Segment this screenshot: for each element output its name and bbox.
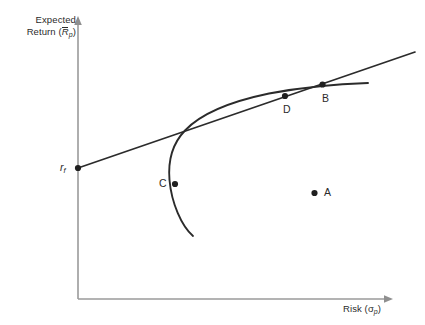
x-axis-title-suffix: ) <box>378 303 381 314</box>
x-axis-title-prefix: Risk ( <box>343 303 368 314</box>
efficient-frontier-curve <box>169 83 368 236</box>
y-axis-title: Expected Return (Rp) <box>14 14 76 41</box>
point-label-c: C <box>159 177 167 189</box>
x-axis-title: Risk (σp) <box>343 303 381 318</box>
point-marker-a <box>311 190 317 196</box>
point-marker-b <box>319 81 325 87</box>
y-axis-title-symbol: R <box>62 26 69 38</box>
point-label-b: B <box>322 92 329 104</box>
risk-free-rate-subscript: f <box>64 166 66 175</box>
efficient-frontier-figure: Expected Return (Rp) Risk (σp) rf A B C … <box>0 0 425 325</box>
point-label-a: A <box>324 186 331 198</box>
point-marker-d <box>282 93 288 99</box>
point-marker-rf <box>75 165 81 171</box>
risk-free-rate-label: rf <box>60 161 66 177</box>
y-axis-title-line2: Return (Rp) <box>14 26 76 41</box>
point-marker-c <box>172 181 178 187</box>
y-axis-title-line1: Expected <box>36 14 76 25</box>
x-axis-arrow-icon <box>384 295 393 303</box>
point-label-d: D <box>283 103 291 115</box>
axes-group <box>74 16 393 303</box>
y-axis-title-suffix: ) <box>73 26 76 37</box>
data-point-markers <box>75 81 326 196</box>
y-axis-title-prefix: Return ( <box>27 26 62 37</box>
capital-market-line <box>78 52 415 168</box>
